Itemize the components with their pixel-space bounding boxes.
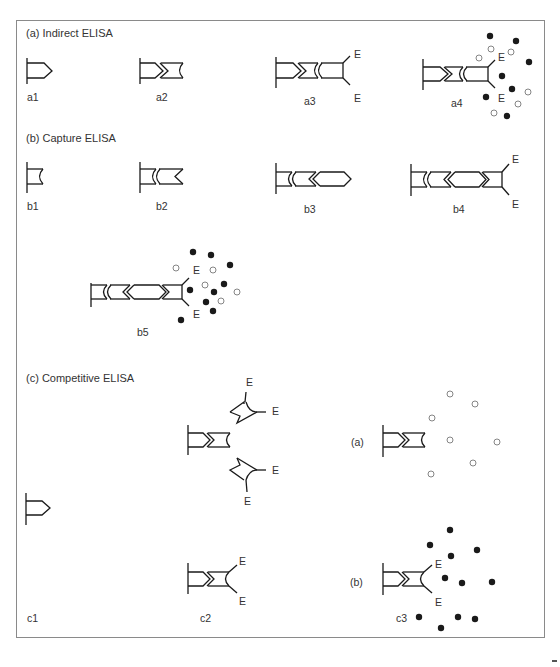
sub-panel-label-a: (a) — [351, 436, 364, 448]
step-c2: E E E E E E c2 — [188, 376, 279, 624]
enzyme-label: E — [435, 558, 442, 570]
enzyme-label: E — [354, 48, 361, 60]
substrate-dots — [428, 391, 500, 477]
step-a2: a2 — [140, 58, 183, 103]
enzyme-label: E — [239, 595, 246, 607]
enzyme-label: E — [498, 92, 505, 104]
step-label-b3: b3 — [304, 203, 316, 215]
enzyme-label: E — [354, 92, 361, 104]
section-title-b: (b) Capture ELISA — [26, 132, 117, 144]
corner-mark — [552, 660, 557, 662]
section-title-c: (c) Competitive ELISA — [26, 372, 135, 384]
step-label-c1: c1 — [27, 612, 38, 624]
step-b5: E E b5 — [91, 249, 240, 338]
enzyme-label: E — [272, 405, 279, 417]
step-b4: E E b4 — [411, 153, 519, 215]
step-label-a3: a3 — [304, 95, 316, 107]
section-title-a: (a) Indirect ELISA — [26, 27, 113, 39]
step-label-a4: a4 — [451, 97, 463, 109]
page-frame — [17, 21, 545, 638]
sub-panel-label-b: (b) — [350, 576, 363, 588]
step-label-c2: c2 — [200, 612, 211, 624]
enzyme-label: E — [498, 51, 505, 63]
step-c1: c1 — [26, 493, 50, 624]
step-label-b1: b1 — [27, 200, 39, 212]
step-a3: E E a3 — [276, 48, 361, 107]
product-dots — [416, 527, 495, 631]
enzyme-label: E — [246, 376, 253, 388]
step-label-a2: a2 — [156, 91, 168, 103]
enzyme-label: E — [272, 464, 279, 476]
step-b2: b2 — [140, 162, 183, 212]
step-c3-b: (b) E E c3 — [350, 527, 495, 631]
enzyme-label: E — [512, 198, 519, 210]
step-a1: a1 — [27, 58, 52, 103]
step-label-b5: b5 — [137, 326, 149, 338]
step-label-b2: b2 — [156, 200, 168, 212]
step-b3: b3 — [276, 163, 351, 215]
enzyme-label: E — [244, 495, 251, 507]
enzyme-label: E — [193, 264, 200, 276]
step-label-c3: c3 — [396, 612, 407, 624]
enzyme-label: E — [435, 596, 442, 608]
enzyme-label: E — [193, 308, 200, 320]
step-label-a1: a1 — [27, 91, 39, 103]
step-c3-a: (a) — [351, 391, 500, 477]
step-b1: b1 — [27, 162, 43, 212]
enzyme-label: E — [512, 153, 519, 165]
enzyme-label: E — [239, 555, 246, 567]
step-label-b4: b4 — [453, 203, 465, 215]
elisa-diagram: (a) Indirect ELISA a1 a2 E E a3 — [0, 0, 560, 667]
step-a4: E E a4 — [423, 33, 532, 119]
